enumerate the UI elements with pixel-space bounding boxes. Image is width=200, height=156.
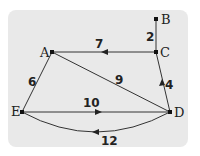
weight-C-A: 7: [95, 37, 103, 51]
edge-A-E: [22, 52, 52, 112]
edge-A-D: [52, 52, 170, 112]
node-C: [154, 50, 158, 54]
node-E: [20, 110, 24, 114]
weight-D-C: 4: [165, 78, 173, 92]
weight-A-D: 9: [115, 73, 123, 87]
arrow-left-icon: [92, 129, 99, 135]
weight-E-D: 10: [83, 96, 100, 110]
node-B: [154, 17, 158, 21]
node-label-A: A: [39, 45, 50, 60]
node-D: [168, 110, 172, 114]
node-label-D: D: [174, 105, 184, 120]
graph-canvas: A B C D E 2 7 9 6 4 10 12: [0, 0, 200, 156]
node-A: [50, 50, 54, 54]
weight-B-C: 2: [146, 30, 154, 44]
weight-D-E: 12: [101, 134, 118, 148]
weight-A-E: 6: [28, 75, 36, 89]
node-label-B: B: [161, 12, 171, 27]
node-label-E: E: [11, 104, 21, 119]
node-label-C: C: [160, 45, 170, 60]
edge-D-E-curved: [22, 112, 170, 132]
